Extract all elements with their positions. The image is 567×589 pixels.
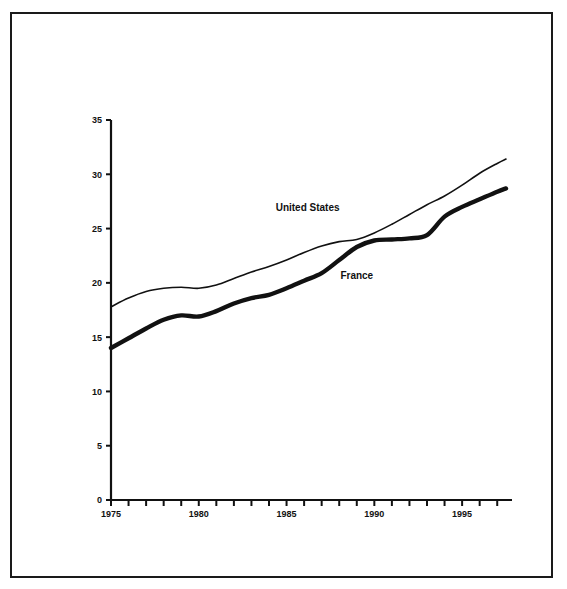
x-tick-label: 1990 (364, 509, 384, 519)
y-tick-label: 10 (92, 387, 102, 397)
y-tick-label: 25 (92, 224, 102, 234)
x-tick-label: 1980 (189, 509, 209, 519)
y-tick-label: 35 (92, 115, 102, 125)
series-line-united-states (111, 159, 506, 307)
chart-figure: 05101520253035 19751980198519901995 Unit… (0, 0, 567, 589)
y-axis-ticks: 05101520253035 (92, 115, 111, 505)
x-tick-label: 1975 (101, 509, 121, 519)
y-tick-label: 15 (92, 333, 102, 343)
y-tick-label: 30 (92, 170, 102, 180)
y-tick-label: 20 (92, 278, 102, 288)
x-axis-ticks: 19751980198519901995 (101, 500, 497, 519)
series-label-united-states: United States (276, 202, 340, 213)
x-tick-label: 1985 (277, 509, 297, 519)
data-series-group (111, 159, 506, 348)
x-tick-label: 1995 (452, 509, 472, 519)
y-tick-label: 0 (97, 495, 102, 505)
series-label-france: France (340, 270, 373, 281)
line-chart: 05101520253035 19751980198519901995 Unit… (0, 0, 567, 589)
y-tick-label: 5 (97, 441, 102, 451)
